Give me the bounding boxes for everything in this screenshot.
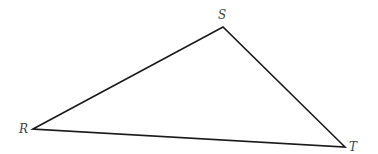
- triangle-svg: R S T: [0, 0, 378, 154]
- triangle-rst: [33, 27, 345, 147]
- vertex-label-r: R: [18, 122, 28, 136]
- vertex-label-s: S: [218, 8, 226, 22]
- vertex-label-t: T: [349, 140, 358, 154]
- triangle-diagram: R S T: [0, 0, 378, 154]
